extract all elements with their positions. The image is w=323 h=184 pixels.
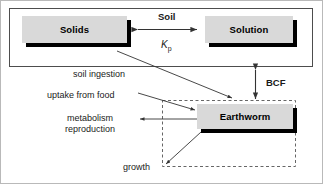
node-solution: Solution [205, 16, 293, 43]
node-solids: Solids [22, 16, 127, 43]
edge-growth [166, 132, 201, 164]
label-soil: Soil [158, 11, 175, 22]
label-growth: growth [123, 162, 150, 173]
node-solids-label: Solids [60, 24, 89, 35]
label-kp: Kp [161, 39, 172, 54]
node-solution-label: Solution [230, 24, 269, 35]
label-kp-subscript: p [168, 45, 172, 52]
label-bcf: BCF [266, 77, 286, 88]
label-soil-ingestion: soil ingestion [73, 69, 125, 80]
edge-uptake-from-food [138, 93, 195, 110]
edge-soil-ingestion [117, 51, 232, 98]
label-kp-symbol: K [161, 39, 168, 50]
node-earthworm: Earthworm [197, 104, 293, 129]
diagram-canvas: Solids Solution Earthworm Soil Kp soil i… [0, 0, 323, 184]
label-uptake-from-food: uptake from food [47, 90, 115, 101]
label-metabolism-reproduction: metabolism reproduction [45, 113, 135, 135]
node-earthworm-label: Earthworm [220, 111, 271, 122]
label-reproduction: reproduction [45, 124, 135, 135]
label-metabolism: metabolism [45, 113, 135, 124]
